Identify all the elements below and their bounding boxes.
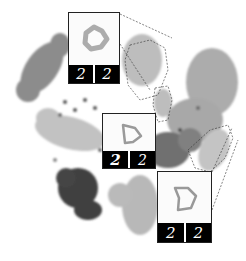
digit-sample: 2 (103, 151, 128, 168)
shape-patch-icon (103, 114, 155, 152)
image-inset-3: 2 2 (157, 171, 212, 243)
digit-sample: 2 (186, 223, 212, 242)
image-inset-2: 2 2 (102, 113, 156, 169)
shape-patch (69, 13, 119, 66)
image-inset-1: 2 2 (68, 12, 120, 84)
digit-sample: 2 (158, 223, 184, 242)
shape-patch (158, 172, 211, 224)
digit-sample: 2 (69, 65, 93, 83)
digit-sample: 2 (130, 151, 155, 168)
shape-patch-icon (158, 172, 211, 224)
digit-sample: 2 (95, 65, 119, 83)
shape-patch (103, 114, 155, 152)
shape-patch-icon (69, 13, 119, 66)
